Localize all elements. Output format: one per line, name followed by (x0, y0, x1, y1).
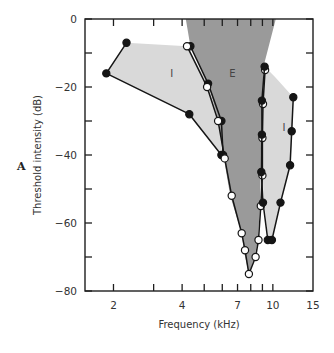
y-tick-label: −20 (55, 81, 77, 93)
x-tick-label: 4 (179, 299, 186, 311)
open-circle-marker (238, 230, 245, 237)
x-tick-label: 2 (110, 299, 117, 311)
y-tick-label: −60 (55, 217, 77, 229)
response-regions: EII (106, 19, 293, 274)
filled-circle-marker (290, 94, 297, 101)
panel-label: A (16, 160, 26, 173)
threshold-tuning-chart: EII 24710150−20−40−60−80 Frequency (kHz)… (0, 0, 334, 353)
region-label-i-high: I (283, 122, 286, 133)
open-circle-marker (245, 270, 252, 277)
region-label-e: E (229, 68, 235, 79)
filled-circle-marker (258, 168, 265, 175)
open-circle-marker (221, 155, 228, 162)
x-tick-label: 15 (306, 299, 319, 311)
region-label-i-low: I (170, 68, 173, 79)
y-axis-title: Threshold intensity (dB) (32, 95, 43, 216)
open-circle-marker (255, 236, 262, 243)
filled-circle-marker (268, 236, 275, 243)
filled-circle-marker (258, 97, 265, 104)
filled-circle-marker (258, 131, 265, 138)
filled-circle-marker (186, 111, 193, 118)
open-circle-marker (228, 192, 235, 199)
x-tick-label: 7 (234, 299, 241, 311)
y-tick-label: −40 (55, 149, 77, 161)
filled-circle-marker (123, 39, 130, 46)
y-tick-label: 0 (70, 13, 77, 25)
filled-circle-marker (103, 70, 110, 77)
y-tick-label: −80 (55, 285, 77, 297)
open-circle-marker (241, 247, 248, 254)
filled-circle-marker (288, 128, 295, 135)
filled-circle-marker (261, 63, 268, 70)
filled-circle-marker (259, 199, 266, 206)
open-circle-marker (252, 253, 259, 260)
filled-circle-marker (287, 162, 294, 169)
x-tick-label: 10 (266, 299, 279, 311)
filled-circle-marker (277, 199, 284, 206)
x-axis-title: Frequency (kHz) (158, 319, 239, 330)
open-circle-marker (204, 83, 211, 90)
open-circle-marker (215, 117, 222, 124)
open-circle-marker (183, 43, 190, 50)
